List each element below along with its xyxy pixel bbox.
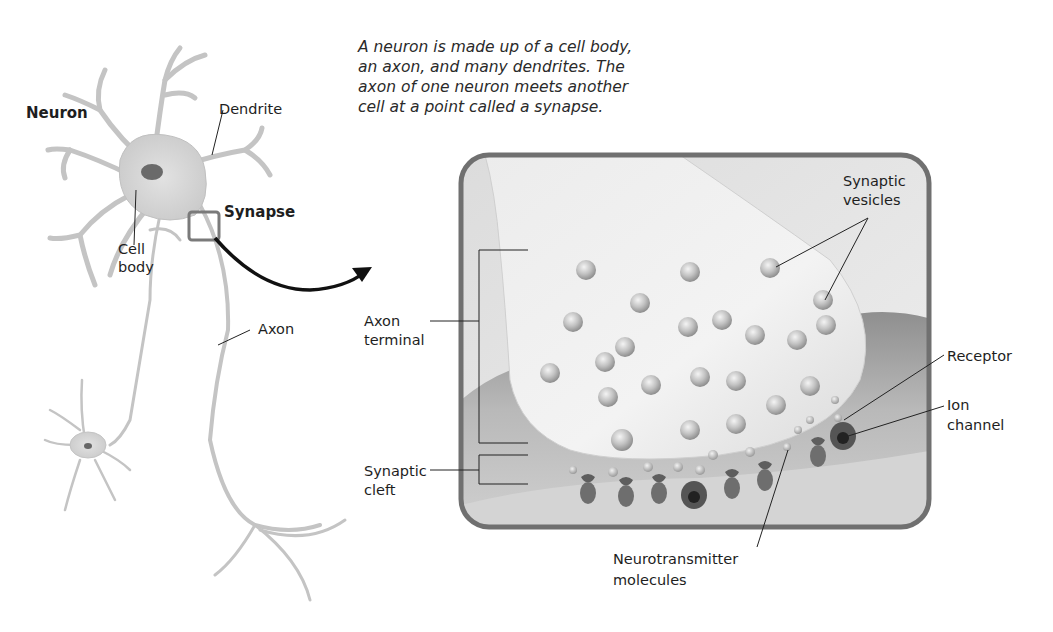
label-cell-body-line1: Cell bbox=[118, 240, 145, 258]
label-ion-channel-line1: Ion bbox=[947, 396, 969, 414]
label-synaptic-cleft-line1: Synaptic bbox=[364, 462, 427, 480]
label-synaptic-vesicles-line1: Synaptic bbox=[843, 172, 906, 190]
nucleus bbox=[141, 164, 163, 180]
label-synaptic-vesicles-line2: vesicles bbox=[843, 191, 901, 209]
label-axon-terminal-line1: Axon bbox=[364, 312, 400, 330]
label-synapse: Synapse bbox=[224, 203, 295, 221]
label-synaptic-cleft-line2: cleft bbox=[364, 481, 395, 499]
caption-line: A neuron is made up of a cell body, bbox=[358, 37, 688, 57]
caption-line: axon of one neuron meets another bbox=[358, 77, 688, 97]
cell-body-shape bbox=[119, 134, 206, 220]
label-axon: Axon bbox=[258, 320, 294, 338]
label-receptor: Receptor bbox=[947, 347, 1012, 365]
label-neurotransmitter-line2: molecules bbox=[613, 571, 687, 589]
label-axon-terminal-line2: terminal bbox=[364, 331, 425, 349]
label-ion-channel-line2: channel bbox=[947, 416, 1004, 434]
label-neurotransmitter-line1: Neurotransmitter bbox=[613, 550, 738, 568]
figure-caption: A neuron is made up of a cell body, an a… bbox=[358, 37, 688, 117]
label-cell-body-line2: body bbox=[118, 258, 154, 276]
synapse-zoom-panel bbox=[461, 155, 935, 530]
caption-line: cell at a point called a synapse. bbox=[358, 97, 688, 117]
zoom-arrow bbox=[215, 238, 365, 290]
label-dendrite: Dendrite bbox=[219, 100, 282, 118]
neuron-title: Neuron bbox=[26, 104, 88, 122]
neuron-illustration bbox=[48, 48, 345, 600]
caption-line: an axon, and many dendrites. The bbox=[358, 57, 688, 77]
